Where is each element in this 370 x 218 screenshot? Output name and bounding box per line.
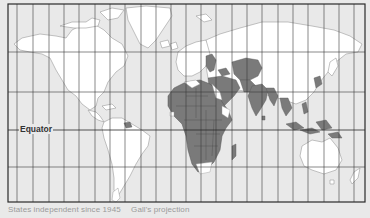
caption-legend: States independent since 1945 <box>8 205 121 214</box>
map-caption: States independent since 1945 Gall's pro… <box>8 205 189 214</box>
map-canvas <box>0 0 370 218</box>
equator-label: Equator <box>19 124 53 134</box>
world-map: Equator States independent since 1945 Ga… <box>0 0 370 218</box>
caption-projection: Gall's projection <box>131 205 189 214</box>
